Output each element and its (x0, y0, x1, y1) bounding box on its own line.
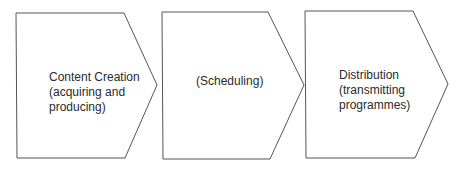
step-label-line: producing) (49, 100, 140, 115)
step-label-scheduling: (Scheduling) (196, 74, 263, 89)
step-label-line: (acquiring and (49, 85, 140, 100)
step-label-line: (Scheduling) (196, 74, 263, 89)
step-label-line: Content Creation (49, 70, 140, 85)
step-label-line: programmes) (339, 98, 410, 113)
step-label-distribution: Distribution (transmitting programmes) (339, 68, 410, 113)
step-label-content-creation: Content Creation (acquiring and producin… (49, 70, 140, 115)
step-label-line: Distribution (339, 68, 410, 83)
step-label-line: (transmitting (339, 83, 410, 98)
